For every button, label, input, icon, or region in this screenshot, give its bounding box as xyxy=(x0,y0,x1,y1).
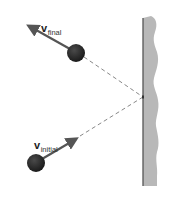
ball-initial-position xyxy=(27,154,45,172)
label-symbol: v xyxy=(34,139,40,151)
label-subscript: initial xyxy=(41,145,58,154)
wall xyxy=(143,16,159,186)
trajectory-incoming xyxy=(80,97,143,136)
wall-body xyxy=(143,16,159,186)
diagram-svg xyxy=(0,0,178,197)
label-subscript: final xyxy=(48,28,62,37)
trajectory-outgoing xyxy=(84,57,143,97)
label-symbol: v xyxy=(41,22,47,34)
impact-point xyxy=(142,96,144,99)
ball-final-position xyxy=(67,44,85,62)
label-v-final: vfinal xyxy=(41,19,61,35)
label-v-initial: vinitial xyxy=(34,136,58,152)
diagram-canvas: vfinal vinitial xyxy=(0,0,178,197)
